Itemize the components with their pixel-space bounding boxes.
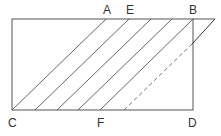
diagonal-E [35,19,129,110]
extension-diagonal [192,19,215,44]
rectangle [12,19,193,110]
diagonal-3 [57,19,151,110]
geometry-diagram: A E B C F D [0,0,221,136]
label-E: E [126,3,134,17]
label-D: D [188,116,197,130]
diagonal-FB [100,19,193,110]
label-C: C [8,116,17,130]
label-B: B [189,3,197,17]
label-A: A [103,3,111,17]
label-F: F [97,116,104,130]
